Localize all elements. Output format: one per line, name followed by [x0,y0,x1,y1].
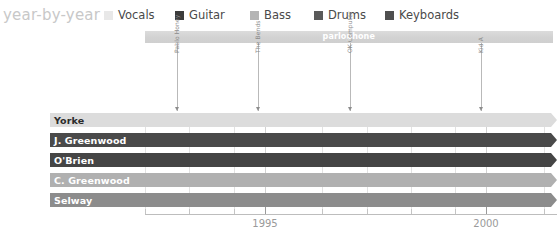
album-marker-label: Kid A [477,37,484,53]
album-marker-line [177,43,178,111]
page-title: year-by-year [3,6,100,24]
bar-arrow-icon [551,133,557,147]
album-marker-arrow-icon [175,107,179,111]
axis-tick [189,209,190,214]
legend-swatch-icon [314,11,323,20]
legend-item-label: Bass [264,9,291,21]
axis-tick [411,209,412,214]
legend-swatch-icon [385,11,394,20]
legend-item-keyboards[interactable]: Keyboards [385,8,459,22]
member-row[interactable]: Yorke [0,113,557,127]
legend-swatch-icon [104,11,113,20]
legend-item-vocals[interactable]: Vocals [104,8,155,22]
album-marker-arrow-icon [348,107,352,111]
member-name-label: J. Greenwood [54,135,126,146]
member-name-label: Selway [54,195,92,206]
album-marker-label: The Bends [254,20,261,53]
member-activity-bar [50,113,551,127]
member-row[interactable]: O'Brien [0,153,557,167]
axis-tick [234,209,235,214]
legend-swatch-icon [250,11,259,20]
legend-item-label: Vocals [118,9,155,21]
album-marker-line [258,43,259,111]
axis-tick-label: 1995 [252,218,277,229]
member-row[interactable]: C. Greenwood [0,173,557,187]
axis-baseline [145,214,557,215]
album-marker-label: OK Computer [346,12,353,54]
album-marker-arrow-icon [256,107,260,111]
legend-item-drums[interactable]: Drums [314,8,366,22]
album-marker-line [350,43,351,111]
axis-tick [265,207,266,214]
member-row[interactable]: Selway [0,193,557,207]
member-name-label: C. Greenwood [54,175,130,186]
axis-tick [455,209,456,214]
legend-item-label: Guitar [189,9,225,21]
album-marker-label: Pablo Honey [173,15,180,53]
axis-tick [486,207,487,214]
axis-tick [322,209,323,214]
member-activity-bar [50,193,551,207]
bar-arrow-icon [551,153,557,167]
bar-arrow-icon [551,193,557,207]
member-name-label: Yorke [54,115,84,126]
legend-item-guitar[interactable]: Guitar [175,8,225,22]
member-name-label: O'Brien [54,155,94,166]
album-marker-line [481,43,482,111]
axis-tick [145,209,146,214]
year-by-year-chart: year-by-year VocalsGuitarBassDrumsKeyboa… [0,0,557,241]
chart-header: year-by-year VocalsGuitarBassDrumsKeyboa… [0,0,557,28]
bar-arrow-icon [551,113,557,127]
album-marker-arrow-icon [479,107,483,111]
member-activity-bar [50,153,551,167]
legend-item-label: Keyboards [399,9,459,21]
bar-arrow-icon [551,173,557,187]
member-row[interactable]: J. Greenwood [0,133,557,147]
axis-tick [367,209,368,214]
plot-area: YorkeJ. GreenwoodO'BrienC. GreenwoodSelw… [0,113,557,215]
axis-tick [544,209,545,214]
axis-tick-label: 2000 [473,218,498,229]
